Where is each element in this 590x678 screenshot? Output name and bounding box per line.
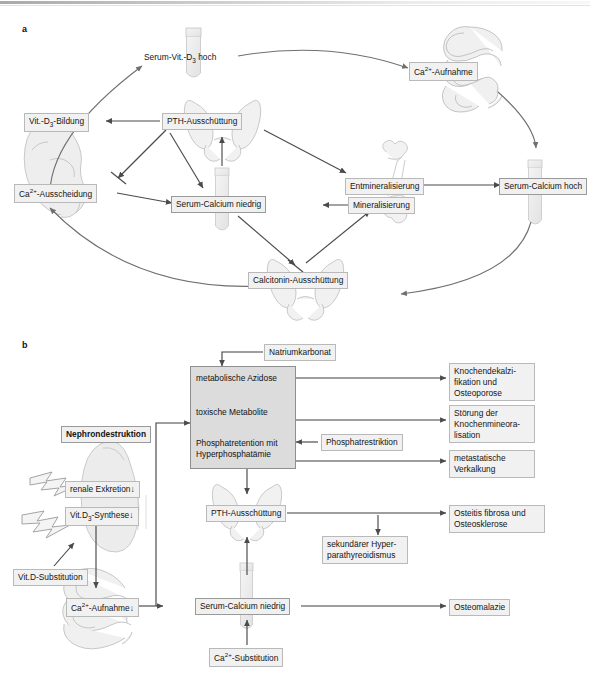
arrow-serumcalciumhoch-to-calcitonin — [401, 222, 531, 294]
node-knochendekalzifikation: Knochendekalzi- fikation und Osteoporose — [449, 363, 535, 401]
stoerung-line-2: Knochenmineora- — [454, 419, 520, 429]
osteitis-line-1: Osteitis fibrosa und — [454, 508, 526, 518]
node-ca-aufnahme-panel-b: Ca2+-Aufnahme↓ — [66, 598, 139, 617]
sekundaerer-hpt-line-1: sekundärer Hyper- — [327, 539, 396, 549]
arrow-vitdsubstitution-to-vitd3synthese — [54, 543, 74, 566]
phosphatretention-line-1: Phosphatretention mit — [196, 438, 277, 448]
node-mineralisierung: Mineralisierung — [348, 197, 415, 214]
arrow-serumvitd3-to-caaufnahme — [238, 50, 408, 68]
inhibit-bar-caausscheidung — [111, 172, 126, 184]
node-nephrondestruktion: Nephrondestruktion — [61, 426, 151, 443]
node-renale-exkretion: renale Exkretion↓ — [65, 481, 140, 498]
thyroid-gland-icon-calcitonin — [267, 259, 343, 320]
node-osteitis-fibrosa: Osteitis fibrosa und Osteosklerose — [449, 505, 545, 533]
arrow-layer — [0, 0, 590, 678]
arrow-serumcalciumniedrig-inhibits-calcitonin — [238, 216, 295, 265]
panel-label-b: b — [22, 340, 28, 350]
scan-artifact-line — [0, 1, 590, 4]
knochendekalzifikation-line-2: fikation und — [454, 377, 497, 387]
node-vit-d-substitution: Vit.D-Substitution — [13, 569, 88, 586]
node-pth-ausschuettung-panel-b: PTH-Ausschüttung — [206, 505, 286, 522]
row-phosphatretention: Phosphatretention mit Hyperphosphatämie — [196, 438, 277, 459]
stoerung-line-3: lisation — [454, 430, 480, 440]
arrow-calcitonin-to-kidney-loop — [50, 208, 262, 286]
node-natriumkarbonat: Natriumkarbonat — [264, 344, 336, 361]
node-pth-ausschuettung-panel-a: PTH-Ausschüttung — [162, 113, 242, 130]
stoerung-line-1: Störung der — [454, 408, 498, 418]
verkalkung-line-2: Verkalkung — [454, 464, 495, 474]
node-phosphatrestriktion: Phosphatrestriktion — [321, 434, 403, 451]
knochendekalzifikation-line-3: Osteoporose — [454, 388, 502, 398]
panel-label-a: a — [22, 24, 27, 34]
arrow-vitd3-to-serumvitd3 — [50, 66, 142, 200]
scan-artifact-line-secondary — [0, 5, 590, 6]
connector-caaufnahme-to-mainbox — [156, 423, 190, 606]
inhibit-bar-calcitonin — [288, 260, 303, 272]
node-serum-calcium-niedrig-panel-a: Serum-Calcium niedrig — [171, 196, 266, 213]
decrease-arrow-icon-2: ↓ — [129, 510, 133, 520]
row-metabolische-azidose: metabolische Azidose — [196, 373, 277, 384]
arrow-calcitonin-to-mineralisierung — [306, 211, 370, 263]
node-ca-aufnahme-panel-a: Ca2+-Aufnahme — [409, 62, 478, 81]
node-serum-calcium-niedrig-panel-b: Serum-Calcium niedrig — [195, 598, 290, 615]
decrease-arrow-icon-3: ↓ — [130, 603, 134, 613]
organ-artwork-layer — [0, 0, 590, 678]
arrow-pth-to-caausscheidung-inhibit — [118, 130, 166, 178]
node-osteomalazie: Osteomalazie — [449, 599, 510, 616]
osteitis-line-2: Osteosklerose — [454, 519, 508, 529]
node-metastatische-verkalkung: metastatische Verkalkung — [449, 450, 535, 478]
node-vit-d3-bildung: Vit.-D3-Bildung — [24, 113, 89, 132]
node-calcitonin-ausschuettung: Calcitonin-Ausschüttung — [248, 272, 348, 289]
node-ca-ausscheidung: Ca2+-Ausscheidung — [14, 184, 97, 203]
thyroid-gland-icon-pth — [184, 100, 260, 161]
arrow-caausscheidung-to-serumcalciumniedrig — [117, 193, 172, 203]
kidney-icon-panel-a — [24, 121, 86, 217]
knochendekalzifikation-line-1: Knochendekalzi- — [454, 366, 516, 376]
row-toxische-metabolite: toxische Metabolite — [196, 407, 268, 418]
node-stoerung-knochenmineralisation: Störung der Knochenmineora- lisation — [449, 405, 535, 443]
arrow-natriumkarbonat-to-azidose — [222, 352, 263, 366]
arrow-pth-to-serumcalciumniedrig — [170, 133, 203, 188]
arrow-caaufnahme-to-serumcalciumhoch — [498, 92, 536, 148]
node-serum-vit-d3-hoch: Serum-Vit.-D3 hoch — [144, 52, 216, 65]
node-entmineralisierung: Entmineralisierung — [345, 178, 424, 195]
node-ca-substitution: Ca2+-Substitution — [209, 648, 283, 667]
node-serum-calcium-hoch: Serum-Calcium hoch — [499, 178, 587, 195]
phosphatretention-line-2: Hyperphosphatämie — [196, 449, 271, 459]
node-sekundaerer-hyperparathyreoidismus: sekundärer Hyper- parathyreoidismus — [322, 536, 408, 564]
node-main-gray-box: metabolische Azidose toxische Metabolite… — [190, 366, 296, 469]
test-tube-icon-panel-b — [240, 563, 253, 629]
lightning-bolt-icon-2 — [22, 511, 70, 538]
arrow-pth-to-entmineralisierung — [264, 130, 346, 173]
node-vit-d3-synthese: Vit.D3-Synthese↓ — [65, 507, 139, 526]
sekundaerer-hpt-line-2: parathyreoidismus — [327, 550, 395, 560]
verkalkung-line-1: metastatische — [454, 453, 506, 463]
decrease-arrow-icon-1: ↓ — [131, 484, 135, 494]
